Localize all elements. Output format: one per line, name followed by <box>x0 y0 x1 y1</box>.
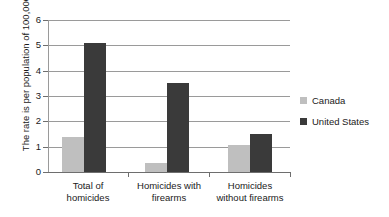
plot-area: 0123456 <box>48 20 290 172</box>
legend-swatch-canada <box>300 97 307 104</box>
y-axis-tick-label: 1 <box>36 142 41 152</box>
y-axis-tick <box>43 147 48 148</box>
bar-united-states[interactable] <box>167 83 189 172</box>
legend-label-united-states: United States <box>312 116 369 127</box>
legend-item-united-states[interactable]: United States <box>300 116 369 127</box>
x-axis-label-line: without firearms <box>190 192 310 204</box>
y-axis-tick <box>43 20 48 21</box>
y-axis-tick-label: 3 <box>36 91 41 101</box>
gridline <box>48 172 290 173</box>
x-axis-separator <box>128 172 129 177</box>
legend: Canada United States <box>300 95 369 137</box>
x-axis-label-line: Homicides <box>190 180 310 192</box>
y-axis-tick <box>43 45 48 46</box>
legend-label-canada: Canada <box>312 95 345 106</box>
bar-united-states[interactable] <box>250 134 272 172</box>
gridline <box>48 20 290 21</box>
bar-canada[interactable] <box>228 145 250 172</box>
y-axis-tick <box>43 121 48 122</box>
bar-chart: The rate is per population of 100,000 01… <box>0 0 389 217</box>
legend-swatch-united-states <box>300 118 307 125</box>
y-axis-tick <box>43 71 48 72</box>
x-axis-separator <box>290 172 291 177</box>
bar-united-states[interactable] <box>84 43 106 172</box>
legend-item-canada[interactable]: Canada <box>300 95 369 106</box>
x-axis-label: Homicideswithout firearms <box>190 180 310 203</box>
y-axis-tick-label: 5 <box>36 40 41 50</box>
y-axis-tick-label: 0 <box>36 167 41 177</box>
y-axis-tick <box>43 96 48 97</box>
x-axis-separator <box>209 172 210 177</box>
y-axis-tick-label: 2 <box>36 116 41 126</box>
bar-canada[interactable] <box>62 137 84 172</box>
bar-canada[interactable] <box>145 163 167 172</box>
y-axis-tick-label: 4 <box>36 66 41 76</box>
y-axis-tick-label: 6 <box>36 15 41 25</box>
y-axis-tick <box>43 172 48 173</box>
y-axis-title: The rate is per population of 100,000 <box>20 0 31 159</box>
